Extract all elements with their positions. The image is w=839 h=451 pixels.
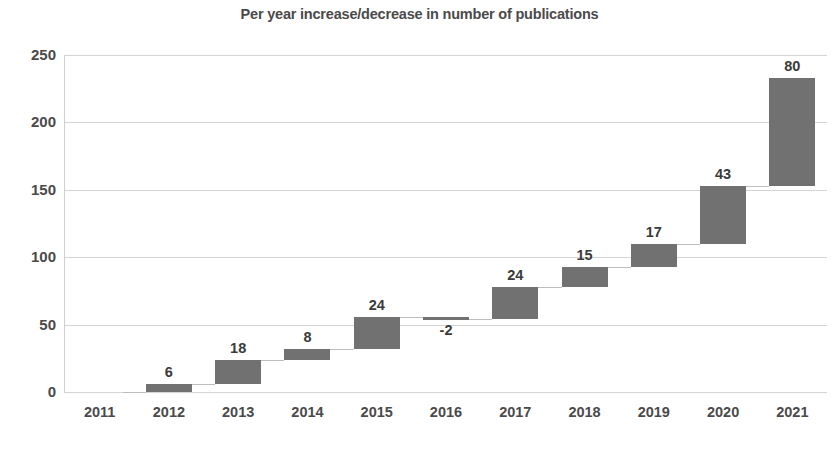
y-axis-tick-label: 0	[10, 383, 56, 400]
y-axis-tick-label: 100	[10, 248, 56, 265]
plot-area	[65, 55, 827, 392]
gridline	[65, 392, 827, 393]
waterfall-chart: Per year increase/decrease in number of …	[0, 0, 839, 451]
gridline	[65, 55, 827, 56]
bar-value-label: 24	[480, 267, 550, 283]
connector-line	[330, 349, 353, 350]
bar[interactable]	[631, 244, 677, 267]
connector-line	[538, 287, 561, 288]
bar-value-label: 6	[134, 364, 204, 380]
bar-value-label: 43	[688, 166, 758, 182]
x-axis-tick-label: 2011	[65, 404, 135, 420]
connector-line	[608, 267, 631, 268]
bar[interactable]	[354, 317, 400, 349]
x-axis-tick-label: 2012	[134, 404, 204, 420]
connector-line	[123, 392, 146, 393]
connector-line	[400, 317, 423, 318]
x-axis-tick-label: 2017	[480, 404, 550, 420]
x-axis-tick-label: 2014	[272, 404, 342, 420]
bar[interactable]	[700, 186, 746, 244]
bar-value-label: -2	[411, 322, 481, 338]
bar[interactable]	[284, 349, 330, 360]
connector-line	[677, 244, 700, 245]
y-axis-tick-labels: 050100150200250	[0, 55, 56, 393]
y-axis-tick-label: 150	[10, 181, 56, 198]
bar[interactable]	[769, 78, 815, 186]
bar-value-label: 8	[272, 329, 342, 345]
bar-value-label: 24	[342, 297, 412, 313]
gridline	[65, 122, 827, 123]
y-axis-tick-label: 200	[10, 113, 56, 130]
y-axis-tick-label: 50	[10, 316, 56, 333]
bar-value-label: 17	[619, 224, 689, 240]
bar[interactable]	[215, 360, 261, 384]
bar-value-label: 15	[550, 247, 620, 263]
bar[interactable]	[423, 317, 469, 320]
x-axis-tick-label: 2015	[342, 404, 412, 420]
connector-line	[746, 186, 769, 187]
connector-line	[469, 319, 492, 320]
bar-value-label: 80	[757, 58, 827, 74]
x-axis-tick-label: 2021	[757, 404, 827, 420]
bar[interactable]	[146, 384, 192, 392]
x-axis-tick-label: 2013	[203, 404, 273, 420]
chart-title: Per year increase/decrease in number of …	[0, 6, 839, 22]
bar[interactable]	[492, 287, 538, 319]
connector-line	[261, 360, 284, 361]
x-axis-tick-label: 2016	[411, 404, 481, 420]
bar[interactable]	[562, 267, 608, 287]
x-axis-tick-label: 2019	[619, 404, 689, 420]
bar-value-label: 18	[203, 340, 273, 356]
gridline	[65, 257, 827, 258]
y-axis-tick-label: 250	[10, 46, 56, 63]
connector-line	[192, 384, 215, 385]
x-axis-tick-label: 2020	[688, 404, 758, 420]
x-axis-tick-label: 2018	[550, 404, 620, 420]
